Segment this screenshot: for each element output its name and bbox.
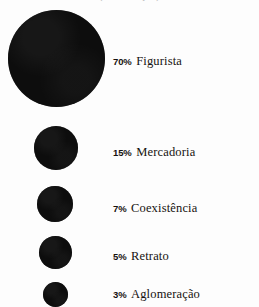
proportion-bubble — [8, 10, 105, 107]
legend-label: 5%Retrato — [113, 247, 169, 263]
proportion-bubble — [39, 236, 72, 269]
legend-percentage: 70% — [113, 56, 132, 67]
legend-label: 7%Coexistência — [113, 199, 197, 215]
legend-category-name: Retrato — [131, 249, 169, 263]
clipped-heading-text: (continuação) — [0, 0, 259, 1]
legend-label: 15%Mercadoria — [113, 143, 195, 159]
legend-percentage: 5% — [113, 251, 127, 262]
legend-category-name: Mercadoria — [136, 145, 195, 159]
clipped-heading: (continuação) — [0, 0, 259, 3]
legend-category-name: Coexistência — [131, 201, 197, 215]
legend-percentage: 15% — [113, 147, 132, 158]
legend-percentage: 3% — [113, 289, 127, 300]
legend-label: 70%Figurista — [113, 52, 182, 68]
proportion-bubble — [34, 126, 78, 170]
proportion-bubble — [37, 186, 73, 222]
proportion-bubble — [43, 282, 68, 307]
legend-category-name: Figurista — [136, 54, 182, 68]
legend-category-name: Aglomeração — [131, 287, 200, 301]
legend-percentage: 7% — [113, 203, 127, 214]
legend-label: 3%Aglomeração — [113, 285, 200, 301]
